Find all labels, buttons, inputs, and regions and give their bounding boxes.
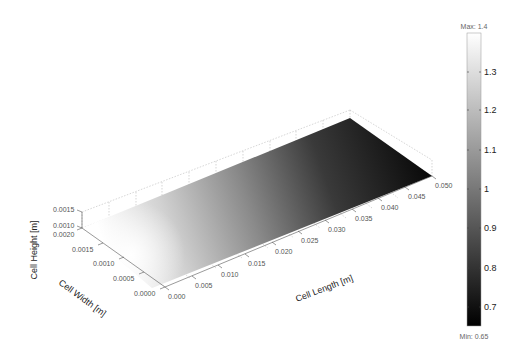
x-tick-label: 0.015 (248, 260, 266, 267)
x-tick-label: 0.025 (301, 237, 319, 244)
colorbar-max-label: Max: 1.4 (461, 23, 488, 30)
colorbar-tick-label: 1.2 (484, 105, 497, 115)
colorbar: Max: 1.4 Min: 0.65 1.3 1.2 1.1 1 0.9 0.8… (460, 23, 497, 340)
y-axis-label: Cell Width [m] (57, 278, 108, 319)
x-tick-label: 0.035 (355, 215, 373, 222)
surface-plot: 0.000 0.005 0.010 0.015 0.020 0.025 0.03… (0, 0, 520, 353)
x-tick-label: 0.010 (221, 271, 239, 278)
z-axis-label: Cell Height [m] (29, 220, 39, 279)
x-tick-label: 0.045 (408, 193, 426, 200)
y-tick-label: 0.0020 (53, 231, 75, 238)
x-tick-label: 0.040 (381, 204, 399, 211)
colorbar-tick-label: 1.3 (484, 67, 497, 77)
colorbar-tick-label: 0.8 (484, 263, 497, 273)
x-tick-label: 0.000 (168, 293, 186, 300)
z-tick-label: 0.0010 (53, 222, 75, 229)
y-tick-label: 0.0005 (113, 275, 135, 282)
x-tick-label: 0.050 (435, 182, 453, 189)
x-axis-label: Cell Length [m] (294, 273, 354, 304)
y-tick-label: 0.0010 (93, 260, 115, 267)
colorbar-min-label: Min: 0.65 (460, 333, 489, 340)
y-tick-label: 0.0015 (72, 246, 94, 253)
colorbar-tick-label: 0.9 (484, 223, 497, 233)
y-tick-label: 0.0000 (134, 290, 156, 297)
z-axis-ticks (77, 210, 82, 228)
colorbar-tick-label: 1.1 (484, 145, 497, 155)
x-tick-label: 0.005 (195, 282, 213, 289)
x-tick-label: 0.030 (328, 226, 346, 233)
x-tick-label: 0.020 (275, 248, 293, 255)
colorbar-tick-label: 1 (484, 184, 489, 194)
colorbar-tick-label: 0.7 (484, 302, 497, 312)
z-axis-tick-labels: 0.0010 0.0015 (53, 206, 75, 229)
z-tick-label: 0.0015 (53, 206, 75, 213)
